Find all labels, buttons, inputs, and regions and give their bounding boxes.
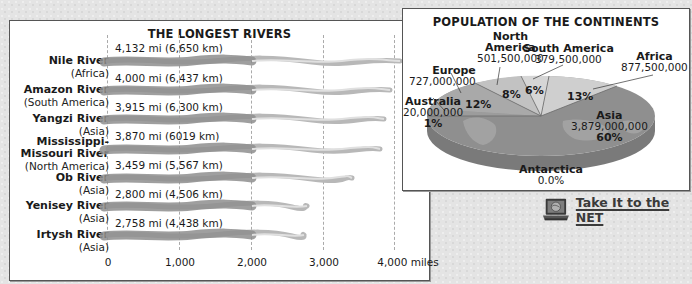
antarctica-pct: 0.0% bbox=[538, 174, 565, 186]
axis-tick: 2,000 bbox=[237, 256, 267, 268]
axis-tick: 1,000 bbox=[165, 256, 195, 268]
australia-pct: 1% bbox=[424, 117, 443, 130]
asia-pct: 60% bbox=[596, 131, 622, 144]
south-america-value: 379,500,000 bbox=[535, 53, 602, 65]
south-america-pct: 6% bbox=[525, 84, 544, 97]
river-bar-amazon bbox=[102, 82, 402, 98]
axis-tick: 4,000 miles bbox=[377, 256, 438, 268]
label-asia: Asia 3,879,000,000 60% bbox=[571, 110, 648, 143]
river-name: Mississippi- Missouri River (North Ameri… bbox=[20, 136, 109, 173]
river-name: Yenisey River (Asia) bbox=[26, 200, 109, 225]
population-chart: POPULATION OF THE CONTINENTS bbox=[402, 8, 690, 191]
africa-pct: 13% bbox=[567, 90, 593, 103]
river-name: Amazon River (South America) bbox=[24, 84, 109, 109]
axis-tick: 3,000 bbox=[309, 256, 339, 268]
africa-value: 877,500,000 bbox=[621, 61, 688, 73]
river-title: Irtysh River bbox=[37, 228, 109, 241]
label-antarctica: Antarctica 0.0% bbox=[519, 164, 583, 186]
pct-africa: 13% bbox=[567, 91, 593, 102]
pct-south-america: 6% bbox=[525, 85, 544, 96]
river-name: Irtysh River (Asia) bbox=[37, 229, 109, 254]
river-title: Amazon River bbox=[24, 83, 109, 96]
label-australia: Australia 20,000,000 1% bbox=[403, 96, 463, 129]
europe-pct: 12% bbox=[465, 98, 491, 111]
axis-tick: 0 bbox=[105, 256, 112, 268]
net-link-label[interactable]: Take It to the NET bbox=[576, 195, 692, 225]
river-title: Missouri River bbox=[20, 147, 109, 160]
river-bar-yangzi bbox=[102, 111, 402, 127]
river-bar-ob bbox=[102, 170, 402, 186]
label-africa: Africa 877,500,000 bbox=[621, 51, 688, 73]
label-europe: Europe 727,000,000 bbox=[409, 65, 476, 87]
laptop-globe-icon bbox=[542, 197, 570, 223]
river-title: Yangzi River bbox=[33, 112, 109, 125]
river-region: (South America) bbox=[24, 96, 109, 108]
river-title: Yenisey River bbox=[26, 199, 109, 212]
north-america-pct: 8% bbox=[502, 88, 521, 101]
europe-value: 727,000,000 bbox=[409, 75, 476, 87]
rivers-chart: THE LONGEST RIVERS 0 1,000 2,000 3,000 4… bbox=[9, 20, 430, 281]
river-bar-irtysh bbox=[102, 227, 402, 243]
river-bar-yenisey bbox=[102, 198, 402, 214]
river-bar-mississippi-missouri bbox=[102, 141, 402, 157]
pct-north-america: 8% bbox=[502, 89, 521, 100]
river-name: Nile River (Africa) bbox=[49, 55, 109, 80]
pct-europe: 12% bbox=[465, 99, 491, 110]
label-south-america: South America 379,500,000 bbox=[523, 43, 614, 65]
rivers-chart-title: THE LONGEST RIVERS bbox=[10, 27, 429, 41]
take-it-to-the-net-link[interactable]: Take It to the NET bbox=[542, 195, 692, 225]
river-bar-nile bbox=[102, 53, 402, 69]
